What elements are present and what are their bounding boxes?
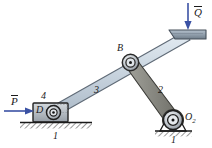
label-ground-left: 1 <box>53 131 58 141</box>
platform-top-right <box>169 30 206 39</box>
ground-left-hatch <box>20 123 92 129</box>
label-force-p-text: P <box>11 95 18 108</box>
force-q-head <box>184 21 191 30</box>
pin-b-center-dot <box>129 61 132 64</box>
label-force-q: Q <box>194 6 202 19</box>
pin-joint-o2 <box>163 110 182 129</box>
pin-joint-d <box>47 106 61 120</box>
label-joint-b: B <box>117 43 123 53</box>
label-link-2-text: 2 <box>158 84 163 95</box>
force-arrow-p <box>4 107 34 114</box>
label-joint-d-text: D <box>36 104 43 115</box>
label-joint-b-text: B <box>117 42 123 53</box>
label-ground-right-text: 1 <box>171 134 176 145</box>
mechanism-figure: P Q B D O2 4 3 2 1 1 <box>0 0 212 148</box>
label-pivot-o2: O2 <box>185 112 196 125</box>
pin-joint-b <box>122 54 138 70</box>
ground-left <box>20 123 92 129</box>
label-ground-left-text: 1 <box>53 130 58 141</box>
label-link-4: 4 <box>41 91 46 101</box>
label-link-2: 2 <box>158 85 163 95</box>
label-link-3-text: 3 <box>94 84 99 95</box>
label-pivot-o2-subscript: 2 <box>192 117 195 124</box>
label-link-3: 3 <box>94 85 99 95</box>
label-link-4-text: 4 <box>41 90 46 101</box>
pin-o2-center-dot <box>172 119 175 122</box>
force-arrow-q <box>184 3 191 30</box>
pin-d-center-dot <box>52 111 55 114</box>
label-force-p: P <box>11 95 18 108</box>
label-force-q-text: Q <box>194 6 202 19</box>
label-ground-right: 1 <box>171 135 176 145</box>
label-joint-d: D <box>36 105 43 115</box>
platform-plate <box>169 30 206 39</box>
mechanism-drawing <box>0 0 212 148</box>
